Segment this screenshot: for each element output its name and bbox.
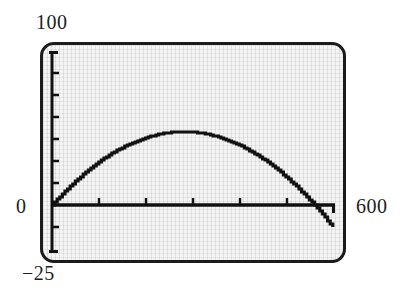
calculator-screen [40, 42, 346, 263]
plot-canvas [43, 45, 343, 260]
calculator-graph-figure: 100 0 −25 600 [0, 0, 408, 294]
y-axis-min-label: −25 [22, 263, 55, 283]
x-axis-max-label: 600 [356, 196, 388, 216]
y-axis-zero-label: 0 [16, 196, 27, 216]
parabola-trace [52, 132, 333, 227]
y-axis-max-label: 100 [36, 12, 68, 32]
